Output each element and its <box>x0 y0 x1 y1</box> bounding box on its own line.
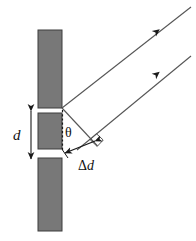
upper-ray <box>62 7 191 108</box>
delta-d-label-group: Δd <box>78 158 95 173</box>
diagram-canvas: d θ Δd <box>0 0 196 241</box>
path-difference-group <box>63 141 96 158</box>
top-barrier <box>38 30 62 108</box>
barrier-group <box>38 30 62 231</box>
delta-d-variable: d <box>87 158 95 173</box>
bottom-barrier <box>38 158 62 231</box>
middle-barrier <box>38 113 62 149</box>
physics-diagram-figure: d θ Δd <box>0 0 196 241</box>
upper-ray-arrow <box>146 31 157 40</box>
delta-d-tick <box>63 150 69 158</box>
slit-spacing-label: d <box>13 127 21 143</box>
theta-label: θ <box>65 125 72 140</box>
delta-d-double-arrow <box>65 141 95 153</box>
delta-symbol: Δ <box>78 158 87 173</box>
lower-ray-arrow <box>146 74 157 83</box>
